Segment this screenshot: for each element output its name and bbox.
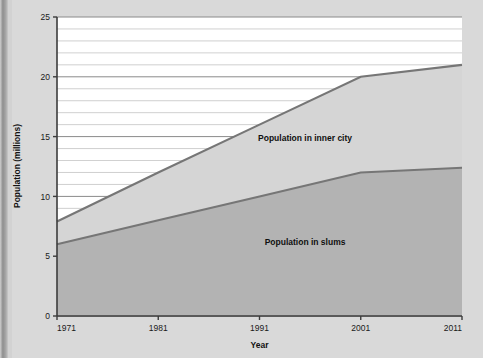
x-axis-title: Year	[251, 340, 270, 350]
series-label-slums: Population in slums	[265, 237, 346, 247]
y-tick-label-10: 10	[41, 192, 51, 202]
x-tick-label-1971: 1971	[57, 323, 76, 333]
area-chart: 25 20 15 10 5 0 1971 1981 1991 2001 2011…	[0, 0, 483, 358]
chart-svg: 25 20 15 10 5 0 1971 1981 1991 2001 2011…	[0, 0, 483, 358]
x-tick-label-2011: 2011	[444, 323, 463, 333]
x-tick-label-2001: 2001	[351, 323, 370, 333]
x-tick-label-1991: 1991	[250, 323, 269, 333]
y-tick-label-25: 25	[41, 12, 51, 22]
y-axis-title: Population (millions)	[12, 124, 22, 208]
y-tick-label-20: 20	[41, 72, 51, 82]
y-tick-label-15: 15	[41, 132, 51, 142]
y-tick-label-5: 5	[45, 251, 50, 261]
x-tick-label-1981: 1981	[149, 323, 168, 333]
series-label-inner-city: Population in inner city	[258, 133, 352, 143]
y-tick-label-0: 0	[45, 311, 50, 321]
chart-page: 25 20 15 10 5 0 1971 1981 1991 2001 2011…	[0, 0, 483, 358]
